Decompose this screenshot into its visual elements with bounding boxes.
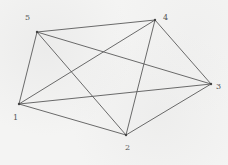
- vertex-label-4: 4: [163, 13, 168, 22]
- edge-2-4: [126, 20, 155, 135]
- graph-diagram: 12345: [0, 0, 228, 165]
- vertex-label-1: 1: [13, 113, 18, 122]
- graph-canvas: 12345: [0, 0, 228, 165]
- vertex-group: [18, 19, 212, 136]
- edge-3-4: [155, 20, 211, 84]
- vertex-label-5: 5: [25, 13, 30, 22]
- vertex-2: [125, 134, 127, 136]
- edge-group: [19, 20, 211, 135]
- edge-2-5: [37, 32, 126, 135]
- vertex-1: [18, 103, 20, 105]
- edge-4-5: [37, 20, 155, 32]
- edge-3-5: [37, 32, 211, 84]
- vertex-4: [154, 19, 156, 21]
- edge-1-5: [19, 32, 37, 104]
- vertex-5: [36, 31, 38, 33]
- vertex-label-3: 3: [216, 82, 221, 91]
- vertex-3: [210, 83, 212, 85]
- edge-1-2: [19, 104, 126, 135]
- vertex-label-2: 2: [125, 143, 130, 152]
